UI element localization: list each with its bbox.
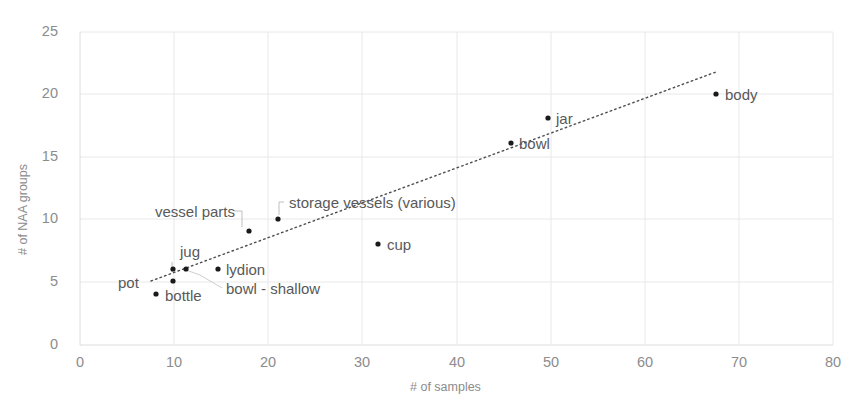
point-label-body: body [725, 86, 758, 103]
x-tick-20: 20 [248, 354, 288, 370]
x-tick-30: 30 [342, 354, 382, 370]
point-label-pot: pot [118, 274, 139, 291]
point-label-jar: jar [556, 110, 573, 127]
point-label-bottle: bottle [165, 287, 202, 304]
x-tick-40: 40 [437, 354, 477, 370]
data-point-pot [170, 278, 175, 283]
data-point-storage-vessels [275, 216, 280, 221]
data-point-jar [545, 115, 550, 120]
point-label-bowl: bowl [519, 135, 550, 152]
point-label-storage-vessels: storage vessels (various) [289, 194, 456, 211]
x-tick-60: 60 [625, 354, 665, 370]
data-point-bowl-shallow [183, 266, 188, 271]
scatter-chart: 25 20 15 10 5 0 0 10 20 30 40 50 60 70 8… [0, 0, 863, 417]
y-tick-5: 5 [18, 273, 58, 289]
point-label-vessel-parts: vessel parts [155, 203, 235, 220]
data-point-vessel-parts [246, 228, 251, 233]
point-label-jug: jug [180, 243, 200, 260]
data-point-cup [375, 241, 380, 246]
x-tick-10: 10 [154, 354, 194, 370]
point-label-lydion: lydion [226, 261, 265, 278]
trendline [151, 72, 716, 281]
y-tick-20: 20 [18, 85, 58, 101]
x-tick-50: 50 [531, 354, 571, 370]
y-tick-0: 0 [18, 336, 58, 352]
y-tick-15: 15 [18, 148, 58, 164]
data-point-bottle [153, 291, 158, 296]
x-tick-70: 70 [719, 354, 759, 370]
data-point-lydion [215, 266, 220, 271]
point-label-bowl-shallow: bowl - shallow [226, 280, 320, 297]
y-axis-title: # of NAA groups [16, 164, 30, 255]
data-point-jug [170, 266, 175, 271]
x-axis-title: # of samples [410, 380, 481, 394]
x-tick-0: 0 [60, 354, 100, 370]
y-tick-25: 25 [18, 23, 58, 39]
x-tick-80: 80 [813, 354, 853, 370]
data-point-bowl [508, 140, 513, 145]
point-label-cup: cup [387, 236, 411, 253]
data-point-body [713, 91, 718, 96]
